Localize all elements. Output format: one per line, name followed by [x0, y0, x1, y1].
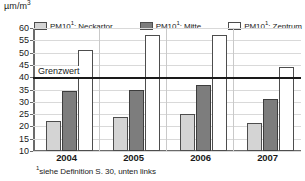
x-tick-label-2005: 2005	[100, 152, 167, 163]
bar-2007-series1[interactable]	[247, 123, 262, 151]
bar-group-2004	[33, 28, 100, 151]
bars-2004	[40, 28, 93, 151]
x-axis-tick-labels: 2004200520062007	[33, 152, 301, 163]
bar-group-2007	[234, 28, 301, 151]
bar-2007-series3[interactable]	[279, 67, 294, 151]
bar-group-2006	[167, 28, 234, 151]
bar-2005-series3[interactable]	[145, 35, 160, 151]
bars-2007	[241, 28, 294, 151]
footnote-text: siehe Definition S. 30, unten links	[39, 167, 156, 176]
bar-2006-series3[interactable]	[212, 35, 227, 151]
y-tick-label-25: 25	[19, 110, 29, 119]
y-tick-label-50: 50	[19, 48, 29, 57]
y-tick-label-60: 60	[19, 24, 29, 33]
bar-2006-series2[interactable]	[196, 85, 211, 151]
x-tick-label-2007: 2007	[234, 152, 301, 163]
bars-2006	[174, 28, 227, 151]
bar-2005-series1[interactable]	[113, 117, 128, 151]
x-tick-label-2006: 2006	[167, 152, 234, 163]
y-tick-label-30: 30	[19, 97, 29, 106]
y-tick-label-20: 20	[19, 122, 29, 131]
y-tick-label-45: 45	[19, 60, 29, 69]
y-tick-label-55: 55	[19, 36, 29, 45]
bar-2005-series2[interactable]	[129, 90, 144, 152]
plot-area: 1015202530354045505560Grenzwert	[33, 28, 301, 151]
bar-groups	[33, 28, 301, 151]
y-axis-unit-label: µm/m3	[4, 1, 31, 11]
y-axis-unit-base: µm/m	[4, 1, 27, 11]
threshold-label-grenzwert: Grenzwert	[36, 66, 82, 77]
threshold-line-grenzwert	[33, 77, 301, 79]
pm10-bar-chart: µm/m3 PM101: Neckartor PM101: Mitte PM10…	[0, 0, 305, 181]
bars-2005	[107, 28, 160, 151]
bar-2006-series1[interactable]	[180, 114, 195, 151]
bar-2007-series2[interactable]	[263, 99, 278, 151]
bar-group-2005	[100, 28, 167, 151]
y-axis-unit-exponent: 3	[27, 0, 31, 6]
y-tick-label-40: 40	[19, 73, 29, 82]
bar-2004-series2[interactable]	[62, 91, 77, 151]
y-tick-label-10: 10	[19, 147, 29, 156]
x-tick-label-2004: 2004	[33, 152, 100, 163]
bar-2004-series1[interactable]	[46, 121, 61, 151]
chart-footnote: 1siehe Definition S. 30, unten links	[36, 167, 156, 176]
y-tick-label-35: 35	[19, 85, 29, 94]
y-tick-label-15: 15	[19, 134, 29, 143]
